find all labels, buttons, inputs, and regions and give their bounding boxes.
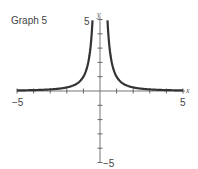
chart: −5 5 5 −5 x y: [0, 0, 198, 169]
y-max-label: 5: [84, 16, 90, 27]
y-axis-label: y: [96, 10, 101, 19]
x-min-label: −5: [12, 97, 24, 108]
y-min-label: −5: [103, 158, 115, 169]
x-axis-label: x: [185, 86, 190, 95]
x-max-label: 5: [180, 97, 186, 108]
